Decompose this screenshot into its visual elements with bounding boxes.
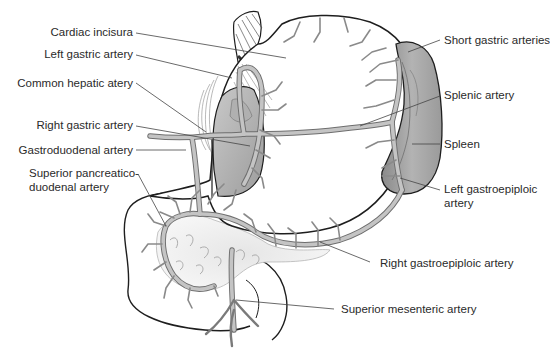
label-superior-mesenteric-artery: Superior mesenteric artery xyxy=(341,302,477,316)
label-left-gastroepiploic-artery-line1: Left gastroepiploic xyxy=(444,182,537,196)
label-right-gastroepiploic-artery: Right gastroepiploic artery xyxy=(380,256,514,270)
label-superior-pancreaticoduodenal-artery-line2: duodenal artery xyxy=(29,180,109,194)
label-right-gastric-artery: Right gastric artery xyxy=(36,118,133,132)
label-short-gastric-arteries: Short gastric arteries xyxy=(444,33,550,47)
label-left-gastric-artery: Left gastric artery xyxy=(44,47,133,61)
label-splenic-artery: Splenic artery xyxy=(444,88,514,102)
label-cardiac-incisura: Cardiac incisura xyxy=(51,25,133,39)
label-superior-pancreaticoduodenal-artery-line1: Superior pancreatico- xyxy=(29,166,139,180)
label-spleen: Spleen xyxy=(444,137,480,151)
label-left-gastroepiploic-artery-line2: artery xyxy=(444,196,473,210)
label-gastroduodenal-artery: Gastroduodenal artery xyxy=(19,143,133,157)
label-common-hepatic-artery: Common hepatic atery xyxy=(17,76,133,90)
